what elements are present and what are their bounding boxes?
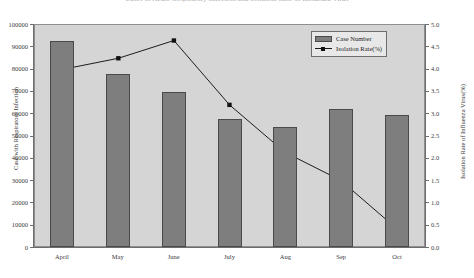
y-axis-left-tick <box>30 69 33 70</box>
x-axis-tick-label: Sep <box>313 253 369 260</box>
y-axis-right-tick-label: 0.0 <box>431 244 465 251</box>
legend-item-isolation-rate: Isolation Rate(%) <box>315 44 382 53</box>
y-axis-right-tick <box>426 225 429 226</box>
y-axis-left-tick <box>30 136 33 137</box>
y-axis-right-title: Isolation Rate of Influenza Virus(%) <box>459 57 466 207</box>
legend-item-case-number: Case Number <box>315 34 382 43</box>
x-axis <box>34 247 426 248</box>
y-axis-right-tick <box>426 113 429 114</box>
y-axis-left-tick <box>30 247 33 248</box>
y-axis-left-tick-label: 90000 <box>0 43 28 50</box>
bar <box>106 74 130 247</box>
bar <box>162 92 186 247</box>
x-axis-tick-label: June <box>146 253 202 260</box>
chart-title: Cases of Acute Respiratory Infection and… <box>0 0 474 4</box>
y-axis-right-tick <box>426 247 429 248</box>
chart-legend: Case Number Isolation Rate(%) <box>311 31 387 57</box>
x-axis-tick-label: May <box>90 253 146 260</box>
bar <box>273 127 297 247</box>
y-axis-left-tick <box>30 158 33 159</box>
y-axis-right-tick <box>426 158 429 159</box>
x-axis-tick-label: Aug <box>257 253 313 260</box>
y-axis-right-tick <box>426 46 429 47</box>
y-axis-right-tick <box>426 24 429 25</box>
y-axis-left-tick <box>30 225 33 226</box>
bar <box>385 115 409 247</box>
bar <box>329 109 353 247</box>
y-axis-left-tick <box>30 24 33 25</box>
y-axis-right-tick <box>426 180 429 181</box>
y-axis-right-tick-label: 0.5 <box>431 221 465 228</box>
y-axis-left-tick <box>30 180 33 181</box>
legend-label-isolation-rate: Isolation Rate(%) <box>336 45 382 52</box>
y-axis-left-tick <box>30 91 33 92</box>
y-axis-left-tick <box>30 202 33 203</box>
y-axis-left-tick-label: 0 <box>0 244 28 251</box>
legend-label-case-number: Case Number <box>336 35 372 42</box>
y-axis-right-tick <box>426 91 429 92</box>
bar <box>50 41 74 247</box>
y-axis-left <box>33 24 34 248</box>
x-axis-tick-label: July <box>202 253 258 260</box>
y-axis-right-tick <box>426 136 429 137</box>
legend-line-swatch-icon <box>315 45 332 52</box>
y-axis-left-tick <box>30 113 33 114</box>
case-number-bar-series <box>35 25 424 247</box>
bar <box>218 119 242 247</box>
y-axis-left-tick-label: 20000 <box>0 199 28 206</box>
y-axis-left-title: Case with Respiratory Infection <box>12 59 19 199</box>
y-axis-left-tick-label: 100000 <box>0 21 28 28</box>
x-axis-tick-label: Oct <box>369 253 425 260</box>
chart-container: Cases of Acute Respiratory Infection and… <box>0 0 474 278</box>
y-axis-left-tick <box>30 46 33 47</box>
y-axis-right-tick <box>426 202 429 203</box>
x-axis-tick-label: April <box>34 253 90 260</box>
legend-bar-swatch-icon <box>315 36 332 42</box>
y-axis-right-tick <box>426 69 429 70</box>
y-axis-right-tick-label: 5.0 <box>431 21 465 28</box>
y-axis-left-tick-label: 10000 <box>0 221 28 228</box>
y-axis-right-tick-label: 4.5 <box>431 43 465 50</box>
